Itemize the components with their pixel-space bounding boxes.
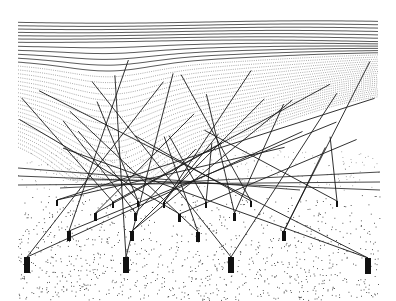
generative-artwork — [0, 0, 396, 301]
